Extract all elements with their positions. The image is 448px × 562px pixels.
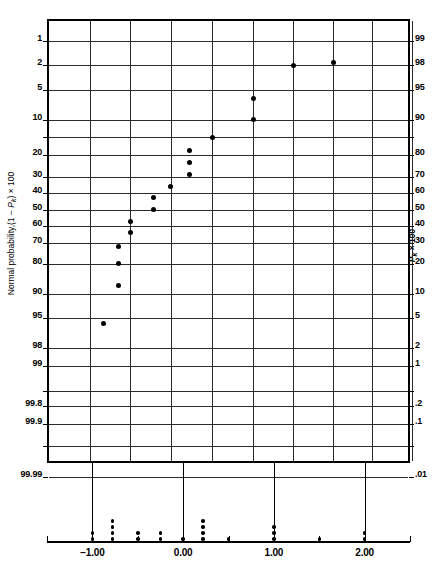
horizontal-gridline: [49, 446, 408, 447]
major-x-drop-line: [365, 463, 366, 541]
horizontal-gridline: [49, 120, 408, 121]
y-tick-label-left: 1: [0, 34, 42, 43]
rug-dot: [272, 525, 276, 529]
data-point: [128, 230, 133, 235]
y-tick-label-left: 98: [0, 341, 42, 350]
rug-dot: [272, 537, 276, 541]
rug-dot: [201, 525, 205, 529]
y-tick-left: [43, 120, 48, 121]
y-tick-label-right: 98: [415, 58, 448, 67]
y-tick-label-right: 95: [415, 83, 448, 92]
rug-dot: [363, 537, 367, 541]
y-tick-label-right: 99: [415, 34, 448, 43]
y-tick-left: [43, 177, 48, 178]
rug-dot: [136, 537, 140, 541]
data-point: [101, 321, 106, 326]
rug-dot: [363, 531, 367, 535]
y-tick-label-right: 70: [415, 170, 448, 179]
rug-dot: [111, 537, 115, 541]
horizontal-gridline: [49, 243, 408, 244]
y-tick-left: [43, 226, 48, 227]
data-point: [151, 207, 156, 212]
horizontal-gridline: [49, 366, 408, 367]
y-tick-left: [43, 90, 48, 91]
y-tick-left: [43, 294, 48, 295]
y-tick-label-left: 99: [0, 359, 42, 368]
rug-dot: [201, 537, 205, 541]
data-point: [251, 117, 256, 122]
data-point: [291, 63, 296, 68]
data-point: [128, 219, 133, 224]
x-tick-label: 0.00: [153, 547, 213, 558]
horizontal-gridline: [49, 90, 408, 91]
rug-dot: [91, 531, 95, 535]
rug-dot: [272, 531, 276, 535]
vertical-gridline: [90, 21, 91, 461]
rug-dot: [111, 531, 115, 535]
y-tick-label-right: 80: [415, 148, 448, 157]
y-tick-label-left: 99.9: [0, 417, 42, 426]
y-tick-label-right: 10: [415, 287, 448, 296]
y-tick-left: [43, 137, 48, 138]
vertical-gridline: [130, 21, 131, 461]
horizontal-gridline: [49, 155, 408, 156]
rug-dot: [201, 531, 205, 535]
rug-dot: [227, 537, 231, 541]
y-tick-label-right: 40: [415, 219, 448, 228]
y-tick-left: [43, 243, 48, 244]
rug-dot: [159, 537, 163, 541]
horizontal-gridline: [49, 193, 408, 194]
y-tick-label-left: 60: [0, 219, 42, 228]
minor-x-tick: [410, 536, 411, 542]
horizontal-gridline: [49, 424, 408, 425]
data-point: [210, 135, 215, 140]
horizontal-gridline: [49, 226, 408, 227]
normal-probability-plot-figure: Normal probability,(1 − Pk) × 100 Pk × 1…: [0, 0, 448, 562]
vertical-gridline: [412, 21, 413, 461]
vertical-gridline: [253, 21, 254, 461]
y-tick-left: [43, 318, 48, 319]
horizontal-gridline: [49, 41, 408, 42]
y-tick-left: [43, 348, 48, 349]
x-tick-label: 2.00: [335, 547, 395, 558]
horizontal-gridline: [49, 137, 408, 138]
data-point: [187, 160, 192, 165]
vertical-gridline: [212, 21, 213, 461]
y-tick-label-left: 70: [0, 236, 42, 245]
data-point: [151, 195, 156, 200]
y-tick-label-left: 2: [0, 58, 42, 67]
y-tick-label-left: 50: [0, 203, 42, 212]
y-tick-label-left: 95: [0, 311, 42, 320]
horizontal-gridline: [49, 391, 408, 392]
horizontal-gridline: [49, 210, 408, 211]
y-tick-label-right: 20: [415, 257, 448, 266]
rug-dot: [159, 531, 163, 535]
vertical-gridline: [333, 21, 334, 461]
horizontal-gridline: [49, 65, 408, 66]
x-tick-label: 1.00: [244, 547, 304, 558]
y-tick-label-right: 50: [415, 203, 448, 212]
major-x-drop-line: [183, 463, 184, 541]
rug-dot: [111, 525, 115, 529]
marginal-dot-plot: −1.000.001.002.00: [0, 463, 448, 562]
y-tick-left: [43, 446, 48, 447]
rug-dot: [181, 537, 185, 541]
y-tick-label-left: 20: [0, 148, 42, 157]
vertical-gridline: [293, 21, 294, 461]
rug-dot: [111, 519, 115, 523]
x-tick-label: −1.00: [62, 547, 122, 558]
plot-area: [47, 19, 410, 463]
y-tick-label-left: 80: [0, 257, 42, 266]
y-tick-left: [43, 155, 48, 156]
rug-dot: [201, 519, 205, 523]
y-tick-label-right: 2: [415, 341, 448, 350]
vertical-gridline: [372, 21, 373, 461]
y-tick-label-left: 90: [0, 287, 42, 296]
vertical-gridline: [171, 21, 172, 461]
data-point: [116, 283, 121, 288]
horizontal-gridline: [49, 264, 408, 265]
horizontal-gridline: [49, 348, 408, 349]
y-tick-left: [43, 424, 48, 425]
y-tick-label-left: 99.8: [0, 399, 42, 408]
horizontal-gridline: [49, 406, 408, 407]
